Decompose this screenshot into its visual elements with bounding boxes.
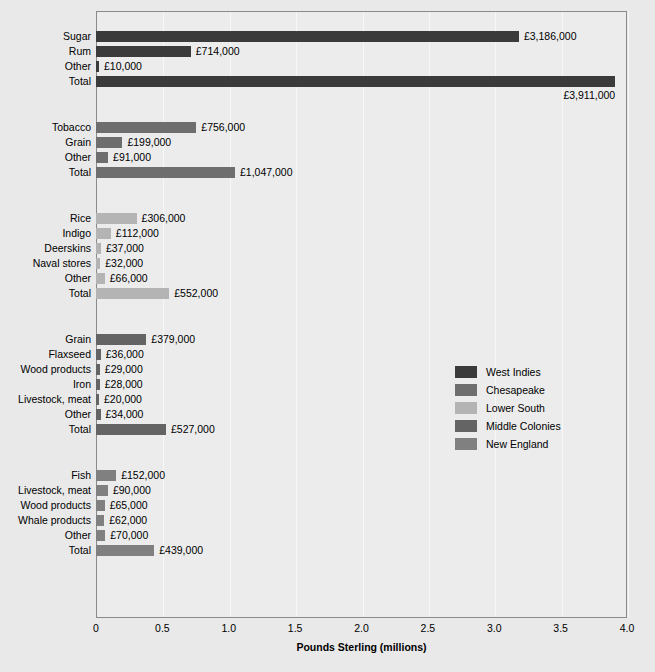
- bar-row-label: Other: [0, 407, 91, 422]
- bar: [96, 545, 154, 556]
- bar-row: Other£66,000: [0, 271, 655, 286]
- bar-value-label: £1,047,000: [240, 165, 293, 180]
- bar-row-label: Grain: [0, 135, 91, 150]
- bar: [96, 288, 169, 299]
- bar-row-label: Total: [0, 286, 91, 301]
- bar-value-label: £3,911,000: [96, 88, 615, 103]
- x-axis-tick-label: 0.5: [155, 622, 170, 634]
- bar-row: Naval stores£32,000: [0, 256, 655, 271]
- bar-row: Rum£714,000: [0, 44, 655, 59]
- bar-row-label: Grain: [0, 332, 91, 347]
- bar-row-label: Other: [0, 59, 91, 74]
- legend-item: Middle Colonies: [455, 417, 615, 435]
- bar-value-label: £37,000: [106, 241, 144, 256]
- bar-row-label: Livestock, meat: [0, 483, 91, 498]
- legend-swatch: [455, 402, 477, 414]
- bar-value-label: £62,000: [109, 513, 147, 528]
- bar-value-label: £439,000: [159, 543, 203, 558]
- bar-value-label: £65,000: [110, 498, 148, 513]
- bar-row-label: Tobacco: [0, 120, 91, 135]
- bar-row-label: Naval stores: [0, 256, 91, 271]
- bar: [96, 137, 122, 148]
- bar-value-label: £70,000: [110, 528, 148, 543]
- bar-value-label: £32,000: [105, 256, 143, 271]
- bar-value-label: £3,186,000: [524, 29, 577, 44]
- x-axis-tick-label: 1.5: [288, 622, 303, 634]
- bar-value-label: £29,000: [105, 362, 143, 377]
- x-axis-title: Pounds Sterling (millions): [96, 641, 627, 653]
- bar-row-label: Rum: [0, 44, 91, 59]
- bar-row: Whale products£62,000: [0, 513, 655, 528]
- bar-row-label: Wood products: [0, 498, 91, 513]
- x-axis-tick-label: 4.0: [620, 622, 635, 634]
- x-axis-tick-label: 0: [93, 622, 99, 634]
- bar-row-label: Total: [0, 543, 91, 558]
- legend-item: Chesapeake: [455, 381, 615, 399]
- bar: [96, 515, 104, 526]
- bar-row: Total£552,000: [0, 286, 655, 301]
- x-axis-tick-label: 2.5: [421, 622, 436, 634]
- bar: [96, 76, 615, 87]
- bar-row-label: Livestock, meat: [0, 392, 91, 407]
- bar-row: Grain£379,000: [0, 332, 655, 347]
- bar: [96, 61, 99, 72]
- legend-label: Chesapeake: [486, 384, 545, 396]
- bar: [96, 46, 191, 57]
- bar-value-label: £28,000: [105, 377, 143, 392]
- bar-row: Livestock, meat£90,000: [0, 483, 655, 498]
- bar: [96, 334, 146, 345]
- bar: [96, 364, 100, 375]
- legend-item: West Indies: [455, 363, 615, 381]
- bar-row-label: Other: [0, 528, 91, 543]
- bar-value-label: £527,000: [171, 422, 215, 437]
- bar-row-label: Indigo: [0, 226, 91, 241]
- bar-row-label: Rice: [0, 211, 91, 226]
- bar-value-label: £66,000: [110, 271, 148, 286]
- bar-value-label: £306,000: [142, 211, 186, 226]
- bar: [96, 243, 101, 254]
- bar-row: Indigo£112,000: [0, 226, 655, 241]
- bar: [96, 167, 235, 178]
- legend-swatch: [455, 438, 477, 450]
- bar: [96, 273, 105, 284]
- bar: [96, 485, 108, 496]
- bar: [96, 228, 111, 239]
- bar-row: Tobacco£756,000: [0, 120, 655, 135]
- legend-item: Lower South: [455, 399, 615, 417]
- legend-item: New England: [455, 435, 615, 453]
- bar: [96, 379, 100, 390]
- bar-value-label: £756,000: [201, 120, 245, 135]
- bar-row-label: Iron: [0, 377, 91, 392]
- bar-row: Total£439,000: [0, 543, 655, 558]
- bar-row-label: Fish: [0, 468, 91, 483]
- bar-value-label: £152,000: [121, 468, 165, 483]
- legend-label: Middle Colonies: [486, 420, 561, 432]
- bar: [96, 394, 99, 405]
- bar-row-label: Whale products: [0, 513, 91, 528]
- bar: [96, 530, 105, 541]
- bar-value-label: £112,000: [116, 226, 159, 241]
- legend-swatch: [455, 420, 477, 432]
- bar: [96, 409, 101, 420]
- bar-row: Sugar£3,186,000: [0, 29, 655, 44]
- bar-row: Total£1,047,000: [0, 165, 655, 180]
- bar: [96, 258, 100, 269]
- bar-value-label: £90,000: [113, 483, 151, 498]
- legend-swatch: [455, 384, 477, 396]
- bar-value-label: £36,000: [106, 347, 144, 362]
- bar-row: Wood products£65,000: [0, 498, 655, 513]
- bar-row: Other£91,000: [0, 150, 655, 165]
- bar-value-label: £714,000: [196, 44, 240, 59]
- bar: [96, 213, 137, 224]
- legend-swatch: [455, 366, 477, 378]
- bar: [96, 349, 101, 360]
- bar-row-label: Other: [0, 150, 91, 165]
- x-axis-tick-label: 3.0: [487, 622, 502, 634]
- x-axis-tick-label: 2.0: [354, 622, 369, 634]
- bar-row: Other£10,000: [0, 59, 655, 74]
- bar-row: Other£70,000: [0, 528, 655, 543]
- bar-row-label: Total: [0, 74, 91, 89]
- bar-row: Fish£152,000: [0, 468, 655, 483]
- bar-row: Deerskins£37,000: [0, 241, 655, 256]
- bar-row-label: Total: [0, 422, 91, 437]
